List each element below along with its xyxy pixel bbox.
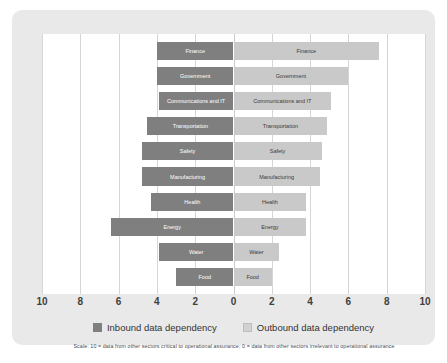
plot-area: FinanceFinanceGovernmentGovernmentCommun…	[42, 34, 425, 294]
x-tick-label: 4	[154, 296, 160, 307]
bar-inbound[interactable]: Water	[159, 243, 234, 261]
x-tick-label: 0	[231, 296, 237, 307]
bar-inbound[interactable]: Government	[157, 67, 234, 85]
bar-outbound[interactable]: Food	[234, 268, 272, 286]
legend-swatch-inbound-icon	[93, 323, 102, 332]
bar-outbound[interactable]: Finance	[234, 42, 380, 60]
x-tick-label: 6	[346, 296, 352, 307]
bar-inbound[interactable]: Manufacturing	[142, 167, 234, 185]
legend-swatch-outbound-icon	[243, 323, 252, 332]
bar-row: EnergyEnergy	[42, 214, 425, 239]
x-tick-label: 2	[192, 296, 198, 307]
x-tick-label: 10	[419, 296, 430, 307]
x-axis: 1086420246810	[42, 296, 425, 312]
chart-card: FinanceFinanceGovernmentGovernmentCommun…	[12, 10, 435, 345]
x-tick-label: 10	[36, 296, 47, 307]
bar-rows: FinanceFinanceGovernmentGovernmentCommun…	[42, 38, 425, 290]
bar-outbound[interactable]: Government	[234, 67, 349, 85]
bar-row: HealthHealth	[42, 189, 425, 214]
gridline-10-10	[425, 34, 426, 294]
x-tick-label: 8	[78, 296, 84, 307]
bar-outbound[interactable]: Communications and IT	[234, 92, 332, 110]
legend-label-outbound: Outbound data dependency	[257, 322, 374, 333]
x-tick-label: 4	[307, 296, 313, 307]
bar-row: GovernmentGovernment	[42, 63, 425, 88]
legend-item-inbound[interactable]: Inbound data dependency	[93, 322, 217, 333]
bar-row: FoodFood	[42, 265, 425, 290]
x-tick-label: 6	[116, 296, 122, 307]
bar-inbound[interactable]: Finance	[157, 42, 234, 60]
bar-row: SafetySafety	[42, 139, 425, 164]
bar-inbound[interactable]: Food	[176, 268, 233, 286]
bar-row: TransportationTransportation	[42, 114, 425, 139]
bar-outbound[interactable]: Water	[234, 243, 280, 261]
bar-row: FinanceFinance	[42, 38, 425, 63]
bar-inbound[interactable]: Safety	[142, 142, 234, 160]
x-tick-label: 8	[384, 296, 390, 307]
bar-inbound[interactable]: Transportation	[147, 117, 233, 135]
bar-inbound[interactable]: Health	[151, 193, 233, 211]
bar-row: Communications and ITCommunications and …	[42, 88, 425, 113]
bar-outbound[interactable]: Transportation	[234, 117, 328, 135]
chart-legend: Inbound data dependency Outbound data de…	[42, 318, 425, 336]
legend-item-outbound[interactable]: Outbound data dependency	[243, 322, 374, 333]
bar-inbound[interactable]: Communications and IT	[159, 92, 234, 110]
bar-outbound[interactable]: Safety	[234, 142, 322, 160]
bar-inbound[interactable]: Energy	[111, 218, 234, 236]
x-tick-label: 2	[269, 296, 275, 307]
bar-row: WaterWater	[42, 240, 425, 265]
bar-outbound[interactable]: Energy	[234, 218, 307, 236]
bar-row: ManufacturingManufacturing	[42, 164, 425, 189]
chart-screenshot: FinanceFinanceGovernmentGovernmentCommun…	[0, 0, 447, 363]
chart-footnote: Scale: 10 = data from other sectors crit…	[34, 343, 434, 349]
legend-label-inbound: Inbound data dependency	[107, 322, 217, 333]
bar-outbound[interactable]: Health	[234, 193, 307, 211]
bar-outbound[interactable]: Manufacturing	[234, 167, 320, 185]
